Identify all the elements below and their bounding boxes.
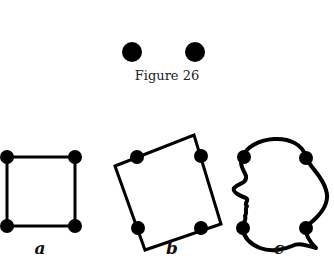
panel-b-label: b bbox=[166, 238, 178, 258]
panel-b-rotated-square bbox=[115, 135, 221, 250]
panel-a-square bbox=[0, 150, 82, 233]
dot-right bbox=[185, 42, 205, 62]
top-dot-pair bbox=[122, 42, 205, 62]
panel-c-label: c bbox=[274, 238, 284, 258]
figure-drawing bbox=[0, 0, 334, 271]
dot-left bbox=[122, 42, 142, 62]
figure-caption: Figure 26 bbox=[0, 68, 334, 83]
panel-a-label: a bbox=[34, 238, 45, 258]
panel-c-face-profile bbox=[234, 139, 327, 250]
